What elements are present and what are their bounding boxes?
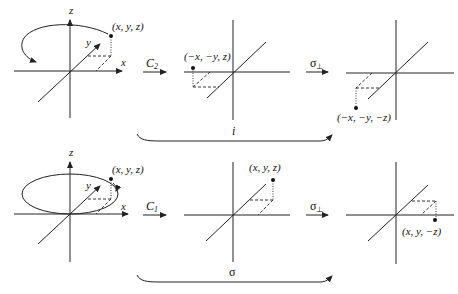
y-axis (38, 186, 100, 244)
composite-label: σ (229, 265, 236, 279)
op-arrow-sigma-perp: σ⊥ (306, 56, 328, 72)
top-mid-panel: (−x, −y, z) (184, 20, 290, 120)
op-arrow-sigma-perp: σ⊥ (306, 199, 328, 215)
x-label: x (120, 56, 126, 68)
point-marker (271, 178, 275, 182)
y-label: y (85, 179, 91, 191)
bottom-end-panel: (x, y, −z) (346, 162, 454, 264)
y-label: y (85, 36, 91, 48)
op-arrow-c1: C1 (143, 199, 166, 215)
point-marker (109, 34, 113, 38)
point-label: (−x, −y, −z) (337, 111, 391, 124)
point-marker (191, 66, 195, 70)
composite-arrow-sigma: σ (137, 265, 332, 282)
point-label: (x, y, z) (112, 163, 144, 176)
point-marker (354, 106, 358, 110)
composite-arrow-i: i (137, 124, 332, 141)
z-label: z (68, 146, 74, 158)
point-label: (x, y, −z) (402, 225, 442, 238)
composite-label: i (232, 124, 235, 138)
y-axis (38, 44, 100, 102)
point-marker (433, 218, 437, 222)
bottom-mid-panel: (x, y, z) (184, 161, 290, 262)
symmetry-operations-diagram: z y x (x, y, z) C2 (−x, −y, z) σ⊥ (−x, −… (0, 0, 458, 294)
op-label: C2 (146, 56, 158, 71)
z-label: z (68, 4, 74, 16)
x-label: x (120, 200, 126, 212)
point-label: (x, y, z) (112, 20, 144, 33)
point-label: (−x, −y, z) (184, 50, 231, 63)
op-label: C1 (146, 199, 158, 214)
top-start-panel: z y x (x, y, z) (14, 4, 144, 118)
op-label: σ⊥ (310, 56, 323, 71)
point-marker (109, 177, 113, 181)
op-arrow-c2: C2 (143, 56, 166, 72)
top-end-panel: (−x, −y, −z) (337, 20, 454, 124)
op-label: σ⊥ (310, 199, 323, 214)
point-label: (x, y, z) (249, 161, 281, 174)
bottom-start-panel: z y x (x, y, z) (14, 146, 144, 262)
